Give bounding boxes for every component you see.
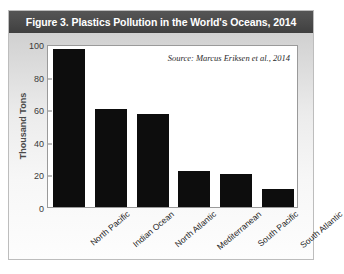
y-tick-label: 20 <box>34 171 48 181</box>
y-tick-mark <box>48 143 52 144</box>
y-tick-label: 80 <box>34 74 48 84</box>
bar <box>137 114 169 207</box>
bar <box>220 174 252 207</box>
bar <box>262 189 294 207</box>
y-tick-mark <box>48 78 52 79</box>
chart-area: Thousand Tons Source: Marcus Eriksen et … <box>9 33 315 261</box>
x-tick-label: North Pacific <box>88 209 131 248</box>
x-tick-label: North Atlantic <box>172 209 217 249</box>
x-tick-label: Indian Ocean <box>131 209 176 249</box>
y-tick-mark <box>48 111 52 112</box>
page-title: Figure 3. Plastics Pollution in the Worl… <box>26 16 296 28</box>
y-tick-label: 60 <box>34 106 48 116</box>
bar <box>95 109 127 207</box>
figure-container: Figure 3. Plastics Pollution in the Worl… <box>8 10 314 260</box>
y-tick-mark <box>48 176 52 177</box>
x-tick-label: South Atlantic <box>298 209 344 250</box>
bar <box>53 49 85 207</box>
y-tick-label: 100 <box>29 41 48 51</box>
figure-title-band: Figure 3. Plastics Pollution in the Worl… <box>9 11 313 33</box>
y-axis-label: Thousand Tons <box>18 91 28 161</box>
y-tick-label: 40 <box>34 139 48 149</box>
plot-area: Source: Marcus Eriksen et al., 2014 0204… <box>47 45 298 208</box>
bar <box>178 171 210 207</box>
bars-layer <box>48 46 297 207</box>
x-axis-labels: North PacificIndian OceanNorth AtlanticM… <box>47 209 298 261</box>
x-tick-label: Mediterranean <box>215 209 263 252</box>
